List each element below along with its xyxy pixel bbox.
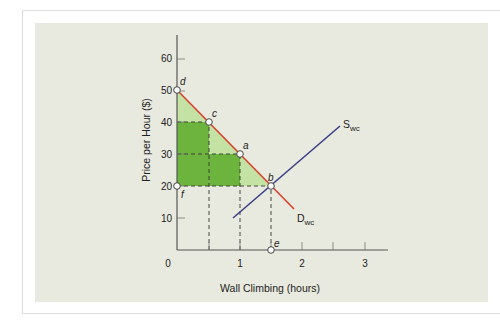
label-f: f [181,189,185,200]
x-tick-0: 0 [165,258,171,269]
label-e: e [274,238,280,249]
y-tick-10: 10 [161,213,173,224]
y-tick-30: 30 [161,149,173,160]
point-d [174,87,181,94]
demand-label: Dwc [297,212,314,227]
label-a: a [243,140,249,151]
y-tick-50: 50 [161,85,173,96]
y-axis-title: Price per Hour ($) [140,98,152,181]
x-tick-3: 3 [362,258,368,269]
x-tick-2: 2 [299,258,305,269]
x-ticks [209,242,365,250]
x-axis-title: Wall Climbing (hours) [220,282,320,294]
y-tick-40: 40 [161,117,173,128]
x-tick-1: 1 [237,258,243,269]
point-c [206,119,213,126]
label-c: c [212,108,217,119]
label-b: b [268,172,274,183]
point-a [237,151,244,158]
chart-svg: 60 50 40 30 20 10 0 1 2 3 Wall Climbing … [0,0,500,332]
point-f [174,183,181,190]
y-tick-20: 20 [161,181,173,192]
y-tick-60: 60 [161,53,173,64]
supply-label: Swc [343,118,360,133]
point-b [268,183,275,190]
label-d: d [180,76,186,87]
